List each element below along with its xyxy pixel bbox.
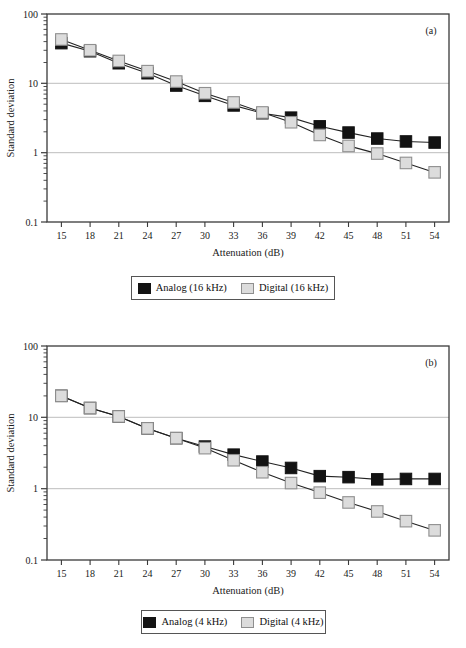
y-axis-title: Standard deviation: [5, 413, 16, 493]
legend-label-digital: Digital (4 kHz): [259, 617, 323, 628]
data-point-marker-digital: [314, 487, 326, 499]
data-point-marker-digital: [400, 515, 412, 527]
x-tick-label: 30: [200, 230, 210, 241]
x-tick-label: 24: [143, 230, 153, 241]
data-point-marker-analog: [285, 462, 297, 474]
data-point-marker-analog: [429, 473, 441, 485]
plot-area-a: 1001010.11518212427303336394245485154Att…: [0, 0, 466, 270]
data-point-marker-digital: [113, 411, 125, 423]
data-point-marker-digital: [285, 117, 297, 129]
data-point-marker-digital: [372, 148, 384, 160]
data-point-marker-digital: [285, 477, 297, 489]
data-point-marker-digital: [142, 423, 154, 435]
x-tick-label: 36: [257, 568, 267, 579]
x-tick-label: 18: [85, 568, 95, 579]
legend-entry-digital-a: Digital (16 kHz): [241, 283, 328, 294]
y-tick-label: 100: [23, 9, 38, 20]
data-point-marker-digital: [84, 402, 96, 414]
x-axis-title: Attenuation (dB): [212, 585, 284, 597]
data-point-marker-digital: [142, 65, 154, 77]
data-point-marker-digital: [171, 76, 183, 88]
data-point-marker-digital: [400, 157, 412, 169]
x-tick-label: 45: [344, 568, 354, 579]
x-tick-label: 48: [372, 568, 382, 579]
data-point-marker-digital: [343, 140, 355, 152]
panel-annotation-label: (b): [425, 357, 437, 369]
x-tick-label: 27: [171, 230, 181, 241]
figure-container: 1001010.11518212427303336394245485154Att…: [0, 0, 466, 648]
panel-a: 1001010.11518212427303336394245485154Att…: [0, 0, 466, 324]
legend-entry-digital-b: Digital (4 kHz): [241, 617, 323, 628]
x-tick-label: 42: [315, 568, 325, 579]
y-axis-title: Standard deviation: [5, 78, 16, 158]
x-tick-label: 15: [56, 230, 66, 241]
y-tick-label: 100: [23, 341, 38, 352]
x-tick-label: 33: [229, 568, 239, 579]
data-point-marker-digital: [113, 55, 125, 66]
plot-frame: [47, 346, 449, 560]
y-tick-label: 0.1: [26, 217, 39, 228]
data-point-marker-digital: [56, 390, 68, 402]
data-point-marker-digital: [372, 506, 384, 518]
plot-area-b: 1001010.11518212427303336394245485154Att…: [0, 324, 466, 604]
x-tick-label: 39: [286, 568, 296, 579]
x-tick-label: 21: [114, 568, 124, 579]
x-tick-label: 33: [229, 230, 239, 241]
x-tick-label: 21: [114, 230, 124, 241]
legend-b: Analog (4 kHz) Digital (4 kHz): [141, 610, 326, 634]
x-tick-label: 18: [85, 230, 95, 241]
legend-entry-analog-a: Analog (16 kHz): [138, 283, 227, 294]
x-tick-label: 30: [200, 568, 210, 579]
x-tick-label: 51: [401, 568, 411, 579]
x-tick-label: 48: [372, 230, 382, 241]
data-point-marker-analog: [429, 137, 441, 149]
legend-a: Analog (16 kHz) Digital (16 kHz): [131, 276, 335, 300]
data-point-marker-analog: [343, 471, 355, 483]
data-point-marker-digital: [314, 129, 326, 141]
data-point-marker-digital: [171, 432, 183, 444]
x-tick-label: 54: [430, 230, 440, 241]
y-tick-label: 10: [28, 78, 38, 89]
data-point-marker-digital: [84, 45, 96, 57]
x-tick-label: 51: [401, 230, 411, 241]
plot-frame: [47, 14, 449, 222]
x-tick-label: 42: [315, 230, 325, 241]
data-point-marker-analog: [400, 473, 412, 485]
x-tick-label: 27: [171, 568, 181, 579]
series-line-analog: [61, 396, 434, 480]
y-tick-label: 1: [33, 147, 38, 158]
data-point-marker-analog: [257, 456, 269, 468]
legend-swatch-analog-icon: [143, 617, 156, 628]
data-point-marker-digital: [257, 107, 269, 119]
panel-b: 1001010.11518212427303336394245485154Att…: [0, 324, 466, 648]
x-tick-label: 36: [257, 230, 267, 241]
data-point-marker-digital: [429, 525, 441, 537]
x-tick-label: 45: [344, 230, 354, 241]
data-point-marker-digital: [343, 497, 355, 509]
x-tick-label: 54: [430, 568, 440, 579]
x-tick-label: 24: [143, 568, 153, 579]
y-tick-label: 10: [28, 412, 38, 423]
x-tick-label: 15: [56, 568, 66, 579]
data-point-marker-digital: [257, 467, 269, 479]
data-point-marker-digital: [199, 88, 211, 100]
legend-swatch-digital-icon: [241, 617, 254, 628]
data-point-marker-analog: [343, 127, 355, 139]
legend-label-digital: Digital (16 kHz): [259, 283, 328, 294]
data-point-marker-analog: [372, 133, 384, 145]
data-point-marker-analog: [314, 470, 326, 482]
legend-swatch-analog-icon: [138, 283, 151, 294]
panel-annotation-label: (a): [425, 25, 436, 37]
legend-label-analog: Analog (4 kHz): [161, 617, 227, 628]
data-point-marker-digital: [429, 167, 441, 179]
data-point-marker-digital: [199, 442, 211, 454]
legend-swatch-digital-icon: [241, 283, 254, 294]
data-point-marker-digital: [56, 34, 68, 46]
data-point-marker-analog: [372, 474, 384, 486]
legend-label-analog: Analog (16 kHz): [156, 283, 227, 294]
data-point-marker-digital: [228, 455, 240, 467]
data-point-marker-digital: [228, 97, 240, 109]
y-tick-label: 1: [33, 483, 38, 494]
legend-entry-analog-b: Analog (4 kHz): [143, 617, 227, 628]
y-tick-label: 0.1: [26, 555, 39, 566]
